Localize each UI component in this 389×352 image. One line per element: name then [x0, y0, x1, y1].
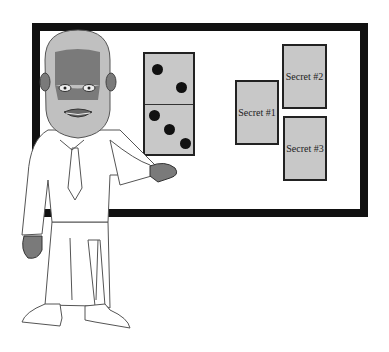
presenter-figure: [0, 0, 389, 352]
illustration: Secret #1 Secret #2 Secret #3: [0, 0, 389, 352]
